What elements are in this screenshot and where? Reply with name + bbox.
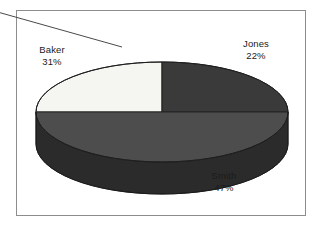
chart-screenshot: Baker 31% Jones 22% Smith 47% [0, 0, 320, 232]
pie-label-smith-name: Smith [196, 170, 252, 182]
pie-label-smith-value: 47% [196, 182, 252, 194]
pie-label-jones: Jones 22% [228, 38, 284, 61]
pie-label-jones-name: Jones [228, 38, 284, 50]
pie-label-baker-name: Baker [24, 44, 80, 56]
pie-label-smith: Smith 47% [196, 170, 252, 193]
pie-label-jones-value: 22% [228, 50, 284, 62]
pie-label-baker: Baker 31% [24, 44, 80, 67]
pie-slice-jones[interactable] [162, 62, 288, 112]
pie-slice-baker[interactable] [36, 62, 162, 112]
pie-chart-graphic [0, 0, 320, 232]
pie-label-baker-value: 31% [24, 56, 80, 68]
